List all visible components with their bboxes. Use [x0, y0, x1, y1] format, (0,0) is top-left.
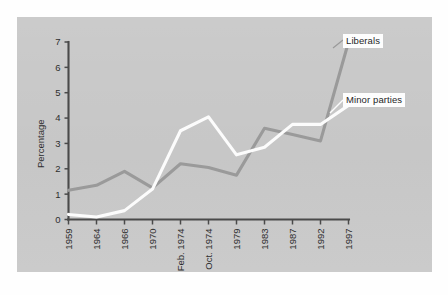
y-tick-label: 5 [55, 87, 60, 98]
series-label-minor-parties: Minor parties [343, 93, 405, 107]
x-tick-label: 1964 [91, 229, 102, 250]
x-tick-label: 1983 [259, 229, 270, 250]
series-label-liberals: Liberals [343, 34, 383, 48]
x-tick-label: 1979 [231, 229, 242, 250]
x-tick-label: Feb. 1974 [175, 229, 186, 272]
leader-line-liberals [333, 40, 343, 48]
x-tick-label: 1966 [119, 229, 130, 250]
y-axis-title: Percentage [35, 119, 46, 168]
x-tick-labels: 1959196419661970Feb. 1974Oct. 1974197919… [63, 229, 354, 272]
y-tick-label: 7 [55, 36, 60, 47]
y-tick-label: 0 [55, 214, 60, 225]
series-line-minor-parties [69, 105, 349, 217]
y-tick-label: 3 [55, 138, 60, 149]
x-tick-label: Oct. 1974 [203, 229, 214, 270]
chart-figure: 01234567 1959196419661970Feb. 1974Oct. 1… [0, 0, 448, 295]
y-tick-label: 1 [55, 189, 60, 200]
x-tick-label: 1959 [63, 229, 74, 250]
y-tick-label: 2 [55, 163, 60, 174]
x-tick-label: 1970 [147, 229, 158, 250]
x-tick-label: 1997 [343, 229, 354, 250]
x-tick-label: 1992 [315, 229, 326, 250]
y-tick-label: 6 [55, 62, 60, 73]
y-tick-labels: 01234567 [55, 36, 60, 225]
x-tick-label: 1987 [287, 229, 298, 250]
y-tick-label: 4 [55, 112, 60, 123]
